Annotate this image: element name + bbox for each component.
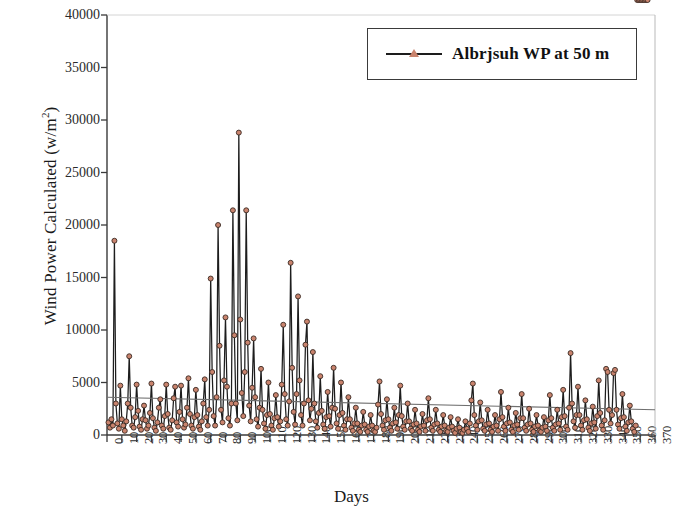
wind-power-chart-figure: Wind Power Calculated (w/m2) 05000100001… bbox=[0, 0, 673, 511]
legend-series-label: Albrjsuh WP at 50 m bbox=[452, 44, 609, 64]
x-axis-title: Days bbox=[0, 487, 673, 507]
legend-series-marker-icon bbox=[386, 47, 442, 61]
chart-legend: Albrjsuh WP at 50 m bbox=[367, 28, 637, 80]
